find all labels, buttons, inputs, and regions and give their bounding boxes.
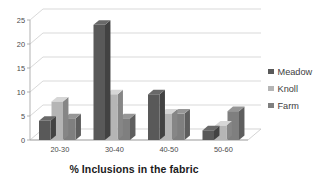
gridline [30,57,261,68]
y-axis-tick-label: 25 [17,16,25,25]
y-axis-tick-label: 0 [21,136,25,145]
y-axis-tick-label: 10 [17,88,25,97]
x-axis-category-label: 40-50 [159,145,178,154]
legend-label-farm: Farm [278,101,299,111]
legend-label-meadow: Meadow [278,67,313,77]
legend-swatch-knoll [268,86,274,92]
bar-meadow-40-50 [148,90,165,140]
x-axis-category-label: 30-40 [105,145,124,154]
y-axis-tick-label: 5 [21,112,25,121]
gridline [30,81,261,92]
legend-swatch-farm [268,103,274,109]
y-axis-tick-labels: 0510152025 [17,16,25,145]
gridline [30,33,261,44]
gridline [30,9,261,20]
x-axis-title: % Inclusions in the fabric [0,163,268,175]
bar-meadow-30-40 [94,20,111,140]
legend-item-knoll[interactable]: Knoll [268,80,335,97]
y-axis-tick-label: 15 [17,64,25,73]
x-axis-category-label: 20-30 [50,145,69,154]
bar-chart: 0510152025 20-3030-4040-5050-60 % Inclus… [0,0,335,190]
bars-group [39,20,244,140]
chart-legend: Meadow Knoll Farm [268,63,335,114]
legend-swatch-meadow [268,69,274,75]
y-axis-tick-label: 20 [17,40,25,49]
legend-label-knoll: Knoll [278,84,298,94]
chart-plot-area: 0510152025 20-3030-4040-5050-60 [0,0,268,160]
bar-meadow-20-30 [39,116,56,140]
legend-item-farm[interactable]: Farm [268,97,335,114]
x-axis-category-label: 50-60 [214,145,233,154]
legend-item-meadow[interactable]: Meadow [268,63,335,80]
x-axis-category-labels: 20-3030-4040-5050-60 [50,145,232,154]
